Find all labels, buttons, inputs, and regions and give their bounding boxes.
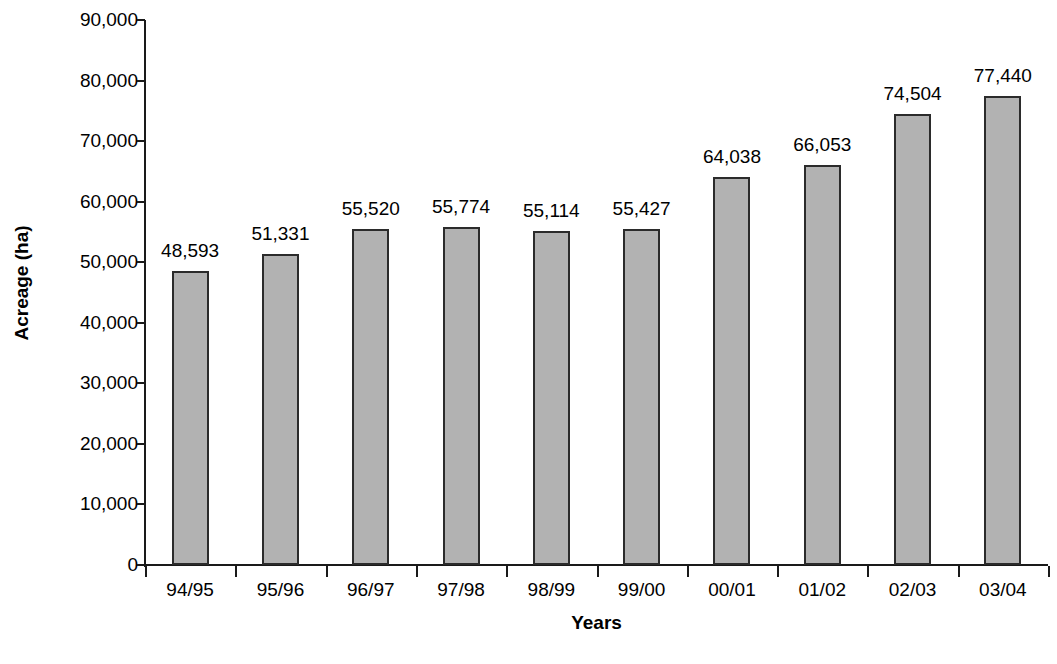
bar-chart: Acreage (ha) 010,00020,00030,00040,00050… [0, 0, 1057, 664]
y-axis-tick-mark [137, 19, 145, 21]
y-axis-tick-mark [137, 503, 145, 505]
bar [262, 254, 299, 565]
bar [443, 227, 480, 565]
bar-value-label: 77,440 [943, 66, 1057, 85]
bar [533, 231, 570, 565]
bar [713, 177, 750, 565]
bar-value-label: 74,504 [853, 84, 973, 103]
bar-value-label: 51,331 [220, 224, 340, 243]
x-axis-tick-mark [416, 566, 418, 577]
bar-value-label: 48,593 [130, 241, 250, 260]
bar [804, 165, 841, 565]
x-axis-tick-mark [597, 566, 599, 577]
x-axis-tick-mark [1048, 566, 1050, 577]
bar [984, 96, 1021, 565]
y-axis-tick-label: 20,000 [16, 434, 138, 453]
y-axis-tick-label: 0 [16, 555, 138, 574]
x-axis-category-label: 03/04 [943, 580, 1057, 599]
y-axis-tick-mark [137, 80, 145, 82]
y-axis-tick-mark [137, 382, 145, 384]
x-axis-tick-mark [687, 566, 689, 577]
x-axis-tick-mark [958, 566, 960, 577]
y-axis-tick-mark [137, 322, 145, 324]
x-axis-title-text: Years [571, 612, 622, 633]
y-axis-tick-mark [137, 140, 145, 142]
bar [894, 114, 931, 565]
y-axis-tick-label: 60,000 [16, 192, 138, 211]
bar [352, 229, 389, 565]
y-axis-tick-labels: 010,00020,00030,00040,00050,00060,00070,… [8, 0, 138, 565]
bar [172, 271, 209, 565]
y-axis-tick-mark [137, 443, 145, 445]
x-axis-tick-mark [506, 566, 508, 577]
y-axis-tick-label: 40,000 [16, 313, 138, 332]
y-axis-tick-label: 70,000 [16, 131, 138, 150]
y-axis-tick-label: 90,000 [16, 10, 138, 29]
y-axis-tick-label: 30,000 [16, 373, 138, 392]
y-axis-tick-label: 50,000 [16, 252, 138, 271]
x-axis-tick-mark [777, 566, 779, 577]
bar-value-label: 55,427 [582, 199, 702, 218]
y-axis-tick-mark [137, 261, 145, 263]
y-axis-tick-label: 80,000 [16, 71, 138, 90]
y-axis-tick-mark [137, 564, 145, 566]
x-axis-tick-mark [867, 566, 869, 577]
y-axis-tick-mark [137, 201, 145, 203]
y-axis-tick-label: 10,000 [16, 494, 138, 513]
x-axis-tick-mark [326, 566, 328, 577]
x-axis-title: Years [145, 612, 1048, 634]
x-axis-tick-mark [235, 566, 237, 577]
bar-value-label: 66,053 [762, 135, 882, 154]
bar [623, 229, 660, 565]
x-axis-tick-mark [145, 566, 147, 577]
